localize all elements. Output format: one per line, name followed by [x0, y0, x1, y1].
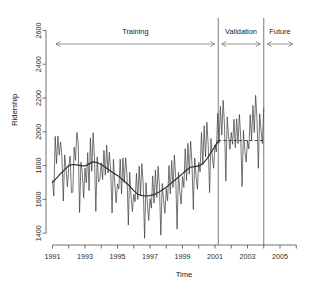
period-label-training: Training — [122, 27, 148, 36]
x-axis-tick-label: 1999 — [175, 252, 191, 261]
y-axis-tick-label: 2400 — [34, 56, 43, 72]
plot-area: TrainingValidationFuture 140016001800200… — [10, 18, 296, 279]
y-axis-tick-label: 1800 — [34, 158, 43, 174]
x-axis-tick-label: 1997 — [142, 252, 158, 261]
y-axis-tick-label: 2600 — [34, 22, 43, 38]
x-axis-tick-label: 1995 — [110, 252, 126, 261]
data-series-group — [53, 95, 264, 238]
y-axis-title: Ridership — [10, 94, 19, 126]
axis-labels-group: 1400160018002000220024002600199119931995… — [10, 22, 288, 279]
y-axis-tick-label: 2200 — [34, 90, 43, 106]
period-label-future: Future — [269, 27, 290, 36]
y-axis-tick-label: 1600 — [34, 191, 43, 207]
y-axis-tick-label: 1400 — [34, 225, 43, 241]
chart-canvas: TrainingValidationFuture 140016001800200… — [0, 0, 316, 295]
trend-line-path — [53, 141, 219, 196]
x-axis-tick-label: 1993 — [77, 252, 93, 261]
y-axis-tick-label: 2000 — [34, 124, 43, 140]
period-divider-lines — [218, 18, 264, 245]
ridership-timeseries-chart: TrainingValidationFuture 140016001800200… — [0, 0, 316, 295]
x-axis-tick-label: 2005 — [272, 252, 288, 261]
x-axis-title: Time — [176, 270, 193, 279]
x-axis-tick-label: 1991 — [45, 252, 61, 261]
x-axis-tick-label: 2001 — [207, 252, 223, 261]
axes-group — [43, 30, 297, 248]
period-label-validation: Validation — [225, 27, 257, 36]
x-axis-tick-label: 2003 — [240, 252, 256, 261]
ridership-series-path — [53, 95, 264, 238]
period-annotations-group: TrainingValidationFuture — [56, 27, 293, 47]
